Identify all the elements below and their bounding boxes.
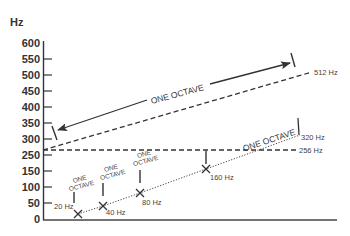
tick-label: 0: [34, 213, 40, 225]
tick-label: 250: [22, 149, 40, 161]
point-label: 160 Hz: [210, 173, 234, 182]
y-axis-unit: Hz: [10, 16, 24, 28]
tick-label: 50: [28, 197, 40, 209]
point-label: 80 Hz: [142, 198, 162, 207]
octave-diagram: Hz 600 550 500 450 400 350 300 250 150 1…: [0, 0, 350, 236]
tick-label: 500: [22, 69, 40, 81]
tick-label: 300: [22, 133, 40, 145]
tick-label: 450: [22, 85, 40, 97]
point-label: 20 Hz: [54, 202, 74, 211]
y-axis-ticks: [43, 59, 52, 203]
tick-label: 600: [22, 37, 40, 49]
point-80hz: 80 Hz ONE OCTAVE: [130, 147, 161, 207]
point-40hz: 40 Hz ONE OCTAVE: [97, 161, 126, 217]
upper-octave-arrow-right: [210, 63, 290, 84]
tick-label: 150: [22, 165, 40, 177]
tick-label: 550: [22, 53, 40, 65]
y-axis-tick-labels: 600 550 500 450 400 350 300 250 150 100 …: [22, 37, 40, 225]
tick-label: 400: [22, 101, 40, 113]
label-512hz: 512 Hz: [314, 68, 338, 77]
upper-octave-bar-left: [52, 126, 57, 140]
upper-octave-bar-right: [291, 53, 295, 67]
upper-octave-label: ONE OCTAVE: [150, 82, 206, 106]
tick-label: 350: [22, 117, 40, 129]
point-160hz: 160 Hz: [202, 151, 234, 182]
point-label: 40 Hz: [106, 208, 126, 217]
upper-octave-arrow-left: [58, 100, 147, 130]
label-320hz: 320 Hz: [301, 133, 325, 142]
point-20hz: 20 Hz ONE OCTAVE: [54, 172, 95, 218]
label-256hz: 256 Hz: [299, 146, 323, 155]
tick-label: 100: [22, 181, 40, 193]
lower-octave-bar: [298, 118, 299, 135]
